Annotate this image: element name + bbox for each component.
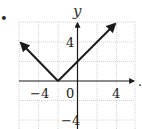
curve-left-branch <box>21 43 58 81</box>
tick-x-neg4: −4 <box>30 86 49 101</box>
bullet: • <box>0 11 8 26</box>
tick-x-0: 0 <box>66 86 74 101</box>
tick-x-4: 4 <box>112 86 120 101</box>
tick-y-4: 4 <box>66 35 74 50</box>
x-axis-label-partial: . <box>138 74 142 89</box>
curve-right-branch <box>58 24 115 81</box>
tick-y-neg4: −4 <box>61 113 80 128</box>
coordinate-plane: • y . −4 0 4 4 −4 <box>0 0 142 129</box>
y-axis-label: y <box>72 2 82 20</box>
